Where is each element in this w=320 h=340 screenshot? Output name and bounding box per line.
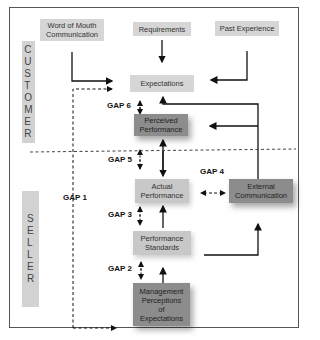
gap4-label: GAP 4 bbox=[200, 167, 224, 176]
edge-past-expectations bbox=[211, 51, 247, 80]
node-actual-performance: Actual Performance bbox=[135, 179, 189, 203]
edge-wom-expectations bbox=[72, 52, 112, 81]
gap2-label: GAP 2 bbox=[108, 264, 132, 273]
gap6-label: GAP 6 bbox=[107, 101, 131, 110]
edge-gap1 bbox=[73, 89, 112, 328]
gap3-label: GAP 3 bbox=[108, 210, 132, 219]
node-management-perceptions: Management Perceptions of Expectations bbox=[133, 283, 190, 326]
node-expectations: Expectations bbox=[130, 75, 194, 92]
node-perceived-performance: Perceived Performance bbox=[134, 114, 188, 136]
node-past-experience: Past Experience bbox=[215, 21, 279, 36]
node-external-communication: External Communication bbox=[229, 179, 293, 203]
gap5-label: GAP 5 bbox=[108, 155, 132, 164]
gap1-label: GAP 1 bbox=[63, 193, 87, 202]
node-requirements: Requirements bbox=[133, 22, 191, 36]
edge-standards-extcomm bbox=[204, 224, 258, 255]
node-word-of-mouth: Word of Mouth Communication bbox=[40, 19, 104, 41]
node-performance-standards: Performance Standards bbox=[133, 231, 191, 255]
